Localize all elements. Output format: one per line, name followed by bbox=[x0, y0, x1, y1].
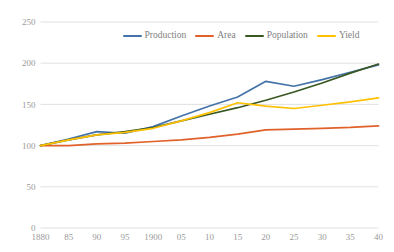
x-axis-tick-label: 85 bbox=[64, 232, 74, 242]
x-axis-tick-label: 40 bbox=[374, 232, 384, 242]
series-line-yield bbox=[41, 98, 379, 146]
x-axis-tick-label: 95 bbox=[121, 232, 131, 242]
y-axis-tick-labels: 050100150200250 bbox=[22, 17, 36, 233]
y-axis-tick-label: 250 bbox=[22, 17, 36, 27]
legend-item-area[interactable]: Area bbox=[195, 31, 235, 41]
gridlines bbox=[41, 22, 379, 228]
x-axis-tick-labels: 188085909519000510152025303540 bbox=[32, 232, 384, 242]
y-axis-tick-label: 50 bbox=[27, 182, 37, 192]
data-series bbox=[41, 64, 379, 146]
y-axis-tick-label: 150 bbox=[22, 100, 36, 110]
legend-swatch-icon bbox=[123, 35, 142, 37]
x-axis-tick-label: 1900 bbox=[144, 232, 163, 242]
y-axis-tick-label: 100 bbox=[22, 141, 36, 151]
x-axis-tick-label: 15 bbox=[233, 232, 243, 242]
x-axis-tick-label: 20 bbox=[261, 232, 271, 242]
legend-item-label: Yield bbox=[339, 31, 360, 41]
x-axis-tick-label: 30 bbox=[318, 232, 328, 242]
legend-item-label: Production bbox=[145, 31, 187, 41]
legend-item-population[interactable]: Population bbox=[245, 31, 308, 41]
x-axis-tick-label: 90 bbox=[92, 232, 102, 242]
line-chart: 050100150200250 188085909519000510152025… bbox=[0, 0, 394, 252]
legend-item-production[interactable]: Production bbox=[123, 31, 187, 41]
legend-item-label: Area bbox=[217, 31, 235, 41]
x-axis-tick-label: 35 bbox=[346, 232, 356, 242]
legend-item-yield[interactable]: Yield bbox=[317, 31, 360, 41]
x-axis-tick-label: 1880 bbox=[32, 232, 51, 242]
legend-item-label: Population bbox=[267, 31, 308, 41]
legend-swatch-icon bbox=[245, 35, 264, 37]
y-axis-tick-label: 200 bbox=[22, 58, 36, 68]
x-axis-tick-label: 25 bbox=[290, 232, 300, 242]
chart-legend: ProductionAreaPopulationYield bbox=[110, 28, 372, 44]
x-axis-tick-label: 10 bbox=[205, 232, 215, 242]
legend-swatch-icon bbox=[195, 35, 214, 37]
legend-swatch-icon bbox=[317, 35, 336, 37]
x-axis-tick-label: 05 bbox=[177, 232, 187, 242]
